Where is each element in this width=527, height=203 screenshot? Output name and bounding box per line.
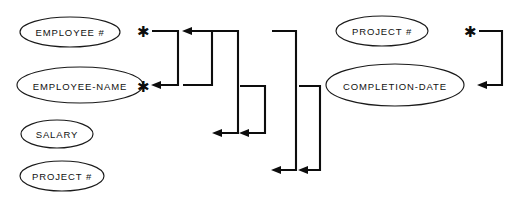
- connector-employee-name-to-salary[interactable]: [239, 86, 265, 137]
- asterisk-marker-employee-number: ✱: [137, 23, 150, 40]
- arrow-head-icon: [239, 129, 249, 137]
- arrow-head-icon: [298, 166, 308, 174]
- arrow-head-icon: [212, 129, 222, 137]
- arrow-head-icon: [151, 81, 161, 89]
- connector-path: [213, 31, 238, 133]
- entity-label: EMPLOYEE #: [35, 27, 104, 38]
- connector-employee-name-to-employee-number[interactable]: [182, 27, 212, 85]
- connector-project-number-to-completion-date[interactable]: [477, 31, 502, 89]
- entity-project-number-left[interactable]: PROJECT #: [20, 161, 104, 191]
- connector-employee-number-to-salary[interactable]: [212, 31, 238, 137]
- entity-completion-date[interactable]: COMPLETION-DATE: [326, 64, 464, 106]
- connector-path: [240, 86, 265, 133]
- entity-employee-name[interactable]: EMPLOYEE-NAME: [17, 67, 143, 103]
- connector-path: [152, 31, 178, 85]
- diagram-canvas: EMPLOYEE # EMPLOYEE-NAME SALARY PROJECT …: [0, 0, 527, 203]
- connector-employee-name-to-project-number[interactable]: [298, 86, 320, 174]
- entity-salary[interactable]: SALARY: [21, 120, 93, 148]
- arrow-head-icon: [271, 166, 281, 174]
- connector-path: [272, 31, 296, 170]
- arrow-head-icon: [477, 81, 487, 89]
- asterisk-marker-project-number: ✱: [464, 23, 477, 40]
- entity-label: PROJECT #: [32, 171, 92, 182]
- entity-label: EMPLOYEE-NAME: [33, 81, 128, 92]
- entity-label: COMPLETION-DATE: [343, 81, 447, 92]
- connector-path: [183, 31, 212, 85]
- connector-path: [479, 31, 502, 85]
- entity-label: PROJECT #: [352, 26, 412, 37]
- entity-label: SALARY: [36, 129, 79, 140]
- arrow-head-icon: [182, 27, 192, 35]
- entity-employee-number[interactable]: EMPLOYEE #: [20, 17, 120, 47]
- functional-dependency-diagram: EMPLOYEE # EMPLOYEE-NAME SALARY PROJECT …: [0, 0, 527, 203]
- connector-path: [299, 86, 320, 170]
- connector-employee-number-to-project-number[interactable]: [271, 31, 296, 174]
- asterisk-marker-employee-name: ✱: [137, 78, 150, 95]
- connector-employee-number-to-employee-name[interactable]: [151, 31, 178, 89]
- entity-project-number-right[interactable]: PROJECT #: [336, 16, 428, 46]
